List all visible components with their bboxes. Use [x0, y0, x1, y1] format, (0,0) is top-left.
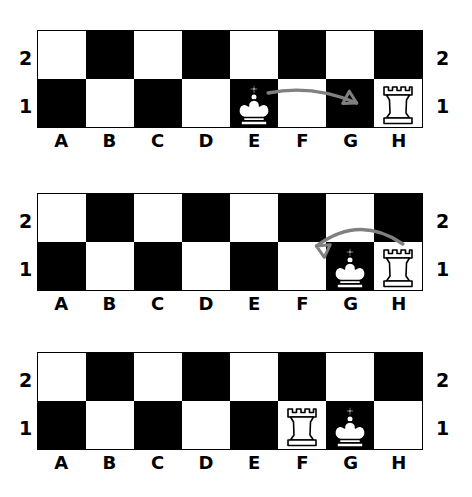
square-B2[interactable]	[86, 353, 134, 401]
file-label-D: D	[182, 293, 230, 317]
rank-label-left-1: 1	[19, 97, 32, 116]
file-label-E: E	[230, 293, 278, 317]
file-label-G: G	[327, 293, 375, 317]
chess-board-2	[37, 193, 423, 291]
board-grid	[37, 352, 423, 450]
king-icon	[330, 405, 370, 449]
file-label-D: D	[182, 452, 230, 476]
file-label-H: H	[375, 293, 423, 317]
file-labels: ABCDEFGH	[37, 293, 423, 317]
square-G1[interactable]	[326, 401, 374, 449]
file-label-F: F	[278, 293, 326, 317]
board-strip-2: 2211 ABCDEFGH	[0, 163, 472, 328]
rank-label-left-2: 2	[19, 49, 32, 68]
square-C2[interactable]	[134, 353, 182, 401]
file-label-E: E	[230, 452, 278, 476]
file-label-H: H	[375, 452, 423, 476]
file-label-C: C	[134, 293, 182, 317]
square-H1[interactable]	[374, 401, 422, 449]
square-B1[interactable]	[86, 401, 134, 449]
file-label-D: D	[182, 130, 230, 154]
arrow-overlay	[37, 30, 423, 128]
square-F2[interactable]	[278, 353, 326, 401]
file-labels: ABCDEFGH	[37, 452, 423, 476]
file-label-B: B	[85, 293, 133, 317]
rank-label-left-2: 2	[19, 212, 32, 231]
square-A1[interactable]	[38, 401, 86, 449]
file-label-E: E	[230, 130, 278, 154]
rank-label-right-1: 1	[436, 260, 449, 279]
square-E2[interactable]	[230, 353, 278, 401]
rank-label-left-1: 1	[19, 260, 32, 279]
file-label-G: G	[327, 452, 375, 476]
king-move-arrow	[37, 30, 423, 128]
white-rook-on-F1	[278, 401, 326, 449]
square-A2[interactable]	[38, 353, 86, 401]
square-G2[interactable]	[326, 353, 374, 401]
file-label-B: B	[85, 130, 133, 154]
square-D1[interactable]	[182, 401, 230, 449]
file-label-A: A	[37, 130, 85, 154]
rank-label-right-1: 1	[436, 419, 449, 438]
square-E1[interactable]	[230, 401, 278, 449]
rank-label-left-2: 2	[19, 371, 32, 390]
white-king-on-G1	[326, 401, 374, 449]
file-label-G: G	[327, 130, 375, 154]
file-label-A: A	[37, 452, 85, 476]
square-D2[interactable]	[182, 353, 230, 401]
square-H2[interactable]	[374, 353, 422, 401]
file-label-F: F	[278, 452, 326, 476]
chess-board-1	[37, 30, 423, 128]
file-label-C: C	[134, 452, 182, 476]
file-label-C: C	[134, 130, 182, 154]
rank-label-right-2: 2	[436, 212, 449, 231]
file-label-B: B	[85, 452, 133, 476]
rook-icon	[283, 405, 321, 449]
rank-label-left-1: 1	[19, 419, 32, 438]
file-labels: ABCDEFGH	[37, 130, 423, 154]
square-F1[interactable]	[278, 401, 326, 449]
arrow-overlay	[37, 193, 423, 291]
board-strip-1: 2211 ABCDEFGH	[0, 0, 472, 165]
file-label-A: A	[37, 293, 85, 317]
chess-board-3	[37, 352, 423, 450]
rank-label-right-2: 2	[436, 371, 449, 390]
board-strip-3: 2211 ABCDEFGH	[0, 322, 472, 487]
rook-move-arrow	[37, 193, 423, 291]
rank-label-right-1: 1	[436, 97, 449, 116]
square-C1[interactable]	[134, 401, 182, 449]
file-label-F: F	[278, 130, 326, 154]
castling-diagram: 2211 ABCDEFGH2211	[0, 0, 472, 497]
rank-label-right-2: 2	[436, 49, 449, 68]
file-label-H: H	[375, 130, 423, 154]
